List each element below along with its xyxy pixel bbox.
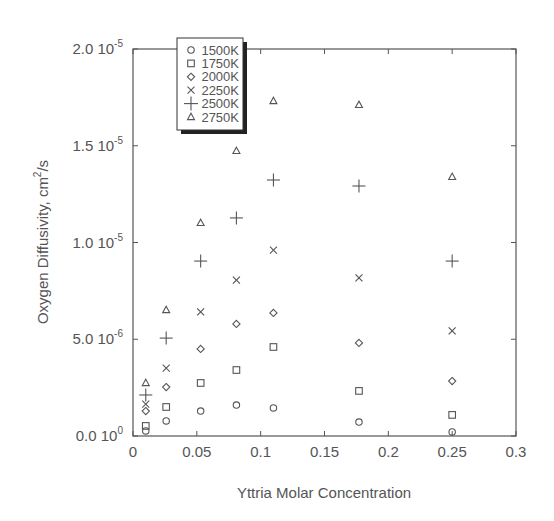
x-tick-label: 0.15 — [310, 443, 339, 460]
series-1500K — [143, 402, 456, 435]
series-2500K — [139, 173, 458, 401]
x-tick-label: 0.3 — [506, 443, 527, 460]
x-marker-icon — [233, 277, 240, 284]
triangle-marker-icon — [163, 306, 170, 312]
y-tick-label: 1.5 10-5 — [72, 135, 123, 154]
plus-marker-icon — [267, 173, 280, 186]
y-tick-label: 2.0 10-5 — [72, 38, 123, 57]
triangle-marker-icon — [197, 219, 204, 225]
legend-label: 2750K — [201, 110, 239, 125]
y-tick-label: 5.0 10-6 — [72, 328, 123, 347]
scatter-chart: 00.050.10.150.20.250.3 0.0 1005.0 10-61.… — [0, 0, 554, 521]
legend: 1500K1750K2000K2250K2500K2750K — [177, 38, 247, 134]
x-tick-label: 0.1 — [250, 443, 271, 460]
circle-marker-icon — [163, 418, 169, 424]
plus-marker-icon — [352, 179, 365, 192]
square-marker-icon — [233, 367, 240, 374]
plus-marker-icon — [160, 332, 173, 345]
diamond-marker-icon — [197, 345, 204, 352]
circle-marker-icon — [356, 419, 362, 425]
x-tick-label: 0.2 — [378, 443, 399, 460]
diamond-marker-icon — [449, 377, 456, 384]
square-marker-icon — [270, 344, 277, 351]
y-tick-label: 0.0 100 — [76, 425, 124, 444]
circle-marker-icon — [270, 405, 276, 411]
square-marker-icon — [356, 388, 363, 395]
x-axis-label: Yttria Molar Concentration — [237, 484, 411, 501]
diamond-marker-icon — [142, 407, 149, 414]
plus-marker-icon — [194, 255, 207, 268]
y-tick-label: 1.0 10-5 — [72, 232, 123, 251]
circle-marker-icon — [233, 402, 239, 408]
x-marker-icon — [142, 401, 149, 408]
x-tick-label: 0.25 — [438, 443, 467, 460]
square-marker-icon — [449, 412, 456, 419]
y-axis-label: Oxygen Diffusivity, cm2/s — [32, 160, 51, 324]
y-axis-ticks: 0.0 1005.0 10-61.0 10-51.5 10-52.0 10-5 — [72, 38, 516, 444]
diamond-marker-icon — [355, 339, 362, 346]
x-tick-label: 0 — [129, 443, 137, 460]
square-marker-icon — [163, 404, 170, 411]
x-marker-icon — [270, 247, 277, 254]
triangle-marker-icon — [233, 147, 240, 153]
series-1750K — [142, 344, 455, 430]
diamond-marker-icon — [233, 320, 240, 327]
data-points — [139, 97, 458, 435]
x-marker-icon — [449, 327, 456, 334]
triangle-marker-icon — [449, 173, 456, 179]
series-2000K — [142, 309, 456, 414]
plus-marker-icon — [230, 211, 243, 224]
series-2250K — [142, 247, 455, 408]
triangle-marker-icon — [355, 101, 362, 107]
diamond-marker-icon — [270, 309, 277, 316]
plus-marker-icon — [139, 388, 152, 401]
circle-marker-icon — [197, 408, 203, 414]
series-2750K — [142, 97, 455, 385]
x-marker-icon — [355, 274, 362, 281]
triangle-marker-icon — [270, 97, 277, 103]
square-marker-icon — [197, 380, 204, 387]
diamond-marker-icon — [163, 383, 170, 390]
x-marker-icon — [197, 308, 204, 315]
x-tick-label: 0.05 — [182, 443, 211, 460]
plus-marker-icon — [446, 255, 459, 268]
x-marker-icon — [163, 365, 170, 372]
triangle-marker-icon — [142, 379, 149, 385]
